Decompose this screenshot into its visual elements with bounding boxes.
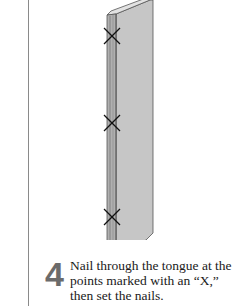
step-instruction: 4 Nail through the tongue at the points … (45, 258, 233, 303)
step-text: Nail through the tongue at the points ma… (70, 258, 232, 303)
board-illustration (0, 0, 233, 240)
board-face (116, 0, 153, 240)
step-number: 4 (45, 259, 64, 289)
